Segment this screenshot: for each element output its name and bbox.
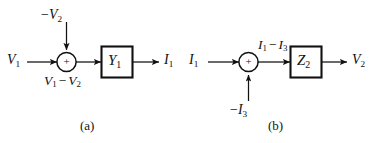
label-block-y1: Y1 bbox=[108, 53, 121, 70]
label-block-y1-subscript: 1 bbox=[116, 59, 121, 70]
signal-flow-figure: −V2 V1 + V1−V2 Y1 I1 (a) I1 + I1−I3 −I3 … bbox=[0, 0, 371, 143]
label-v1-minus-v2-first: V bbox=[44, 73, 52, 88]
label-input-i1: I1 bbox=[189, 53, 198, 69]
junction-plus-sign-a: + bbox=[60, 56, 73, 67]
label-output-i1-a: I1 bbox=[164, 53, 173, 69]
label-output-v2-b-subscript: 2 bbox=[361, 59, 366, 69]
label-v1-minus-v2-second: V bbox=[68, 73, 76, 88]
label-v1-minus-v2-operator: − bbox=[57, 73, 69, 88]
label-output-i1-a-subscript: 1 bbox=[169, 59, 174, 69]
label-block-z2: Z2 bbox=[297, 53, 310, 70]
caption-a: (a) bbox=[80, 119, 94, 132]
minus-operator-b: − bbox=[230, 102, 238, 117]
caption-b: (b) bbox=[268, 119, 283, 132]
label-input-i1-subscript: 1 bbox=[194, 59, 199, 69]
label-input-v1: V1 bbox=[7, 53, 20, 69]
label-block-z2-subscript: 2 bbox=[305, 59, 310, 70]
label-i1-minus-i3: I1−I3 bbox=[258, 38, 288, 53]
label-v1-minus-v2: V1−V2 bbox=[44, 74, 81, 89]
label-input-v1-symbol: V bbox=[7, 52, 16, 67]
label-minus-i3: −I3 bbox=[230, 103, 247, 119]
label-minus-v2-subscript: 2 bbox=[57, 14, 62, 24]
diagram-b-group bbox=[208, 47, 347, 102]
label-input-v1-subscript: 1 bbox=[16, 59, 21, 69]
diagram-a-group bbox=[27, 22, 159, 78]
label-i1-minus-i3-operator: − bbox=[267, 37, 279, 52]
minus-operator: − bbox=[41, 7, 49, 22]
label-minus-i3-subscript: 3 bbox=[243, 109, 248, 119]
label-output-v2-b-symbol: V bbox=[352, 52, 361, 67]
label-minus-v2: −V2 bbox=[41, 8, 62, 24]
label-output-v2-b: V2 bbox=[352, 53, 365, 69]
label-i1-minus-i3-second-subscript: 3 bbox=[283, 43, 287, 53]
label-v1-minus-v2-second-subscript: 2 bbox=[77, 79, 81, 89]
junction-plus-sign-b: + bbox=[242, 56, 255, 67]
